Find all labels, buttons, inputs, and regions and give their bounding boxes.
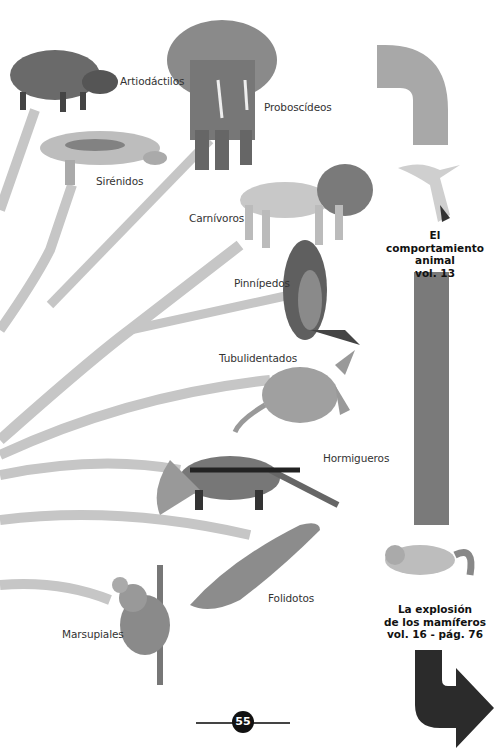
branch-tubulidentados <box>0 380 270 455</box>
label-folidotos: Folidotos <box>268 592 314 604</box>
page-number: 55 <box>232 711 254 733</box>
page-rule-left <box>196 722 234 724</box>
lion-illustration <box>240 164 373 248</box>
branch-sirenidos <box>0 185 72 330</box>
reference-explosion-mamiferos[interactable]: La explosión de los mamíferos vol. 16 - … <box>375 603 495 641</box>
label-artiodactilos: Artiodáctilos <box>120 75 184 87</box>
elephant-illustration <box>167 20 277 170</box>
reference-comportamiento-animal[interactable]: El comportamiento animal vol. 13 <box>380 229 490 279</box>
label-marsupiales: Marsupiales <box>62 628 124 640</box>
reference-volume: vol. 13 <box>380 267 490 280</box>
branch-hormigueros <box>0 464 180 475</box>
reference-title-line2: de los mamíferos <box>375 616 495 629</box>
reference-title-line1: La explosión <box>375 603 495 616</box>
branch-folidotos <box>0 515 250 535</box>
label-hormigueros: Hormigueros <box>323 452 389 464</box>
connector-arrow-bottom <box>415 650 494 748</box>
seal-illustration <box>283 240 360 345</box>
label-tubulidentados: Tubulidentados <box>219 352 297 364</box>
anteater-illustration <box>157 456 338 515</box>
branch-marsupiales <box>0 584 110 600</box>
label-carnivoros: Carnívoros <box>189 212 244 224</box>
wild-boar-illustration <box>10 50 118 112</box>
page-rule-right <box>252 722 290 724</box>
label-sirenidos: Sirénidos <box>96 175 143 187</box>
reference-title-line1: El comportamiento <box>380 229 490 254</box>
seagull-illustration <box>398 164 460 222</box>
label-pinnipedos: Pinnípedos <box>234 277 290 289</box>
lemur-illustration <box>385 545 471 575</box>
connector-bar-middle <box>414 272 449 525</box>
branch-artiodactilos <box>0 110 35 210</box>
reference-volume: vol. 16 - pág. 76 <box>375 628 495 641</box>
label-proboscideos: Proboscídeos <box>264 101 332 113</box>
reference-title-line2: animal <box>380 254 490 267</box>
connector-arc-top <box>377 45 448 145</box>
koala-illustration <box>112 565 170 685</box>
